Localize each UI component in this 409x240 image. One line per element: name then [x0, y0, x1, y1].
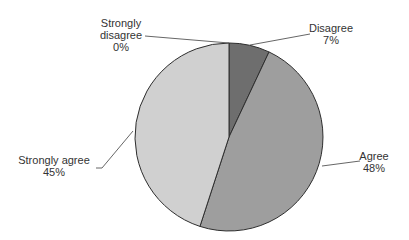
pie-slices — [135, 43, 323, 231]
label-disagree-name: Disagree — [306, 22, 356, 34]
label-disagree-pct: 7% — [306, 34, 356, 46]
leader-line-disagree — [250, 34, 310, 45]
label-strongly-agree-name: Strongly agree — [14, 154, 94, 166]
leader-line-strongly-agree — [96, 131, 133, 168]
label-strongly-agree: Strongly agree 45% — [14, 154, 94, 178]
label-agree: Agree 48% — [354, 150, 394, 174]
label-agree-name: Agree — [354, 150, 394, 162]
label-strongly-disagree: Strongly disagree 0% — [96, 17, 146, 53]
label-agree-pct: 48% — [354, 162, 394, 174]
label-strongly-agree-pct: 45% — [14, 166, 94, 178]
leader-line-strongly-disagree — [145, 36, 229, 43]
label-disagree: Disagree 7% — [306, 22, 356, 46]
label-strongly-disagree-line1: Strongly — [96, 17, 146, 29]
label-strongly-disagree-line2: disagree — [96, 29, 146, 41]
label-strongly-disagree-pct: 0% — [96, 41, 146, 53]
